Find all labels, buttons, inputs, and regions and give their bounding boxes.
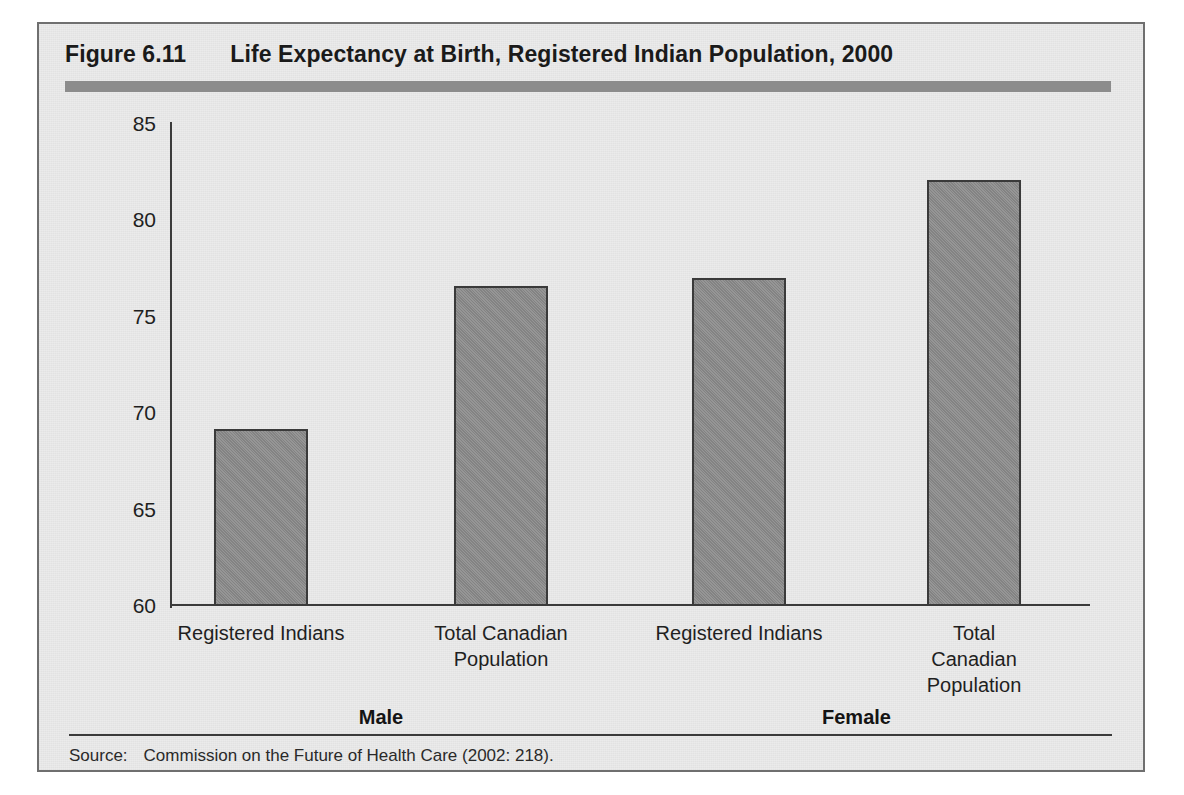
x-axis-category-label: Total Canadian Population [916, 620, 1032, 698]
y-axis-tick-label: 65 [133, 498, 156, 522]
y-axis-tick-label: 75 [133, 305, 156, 329]
x-axis-category-label: Registered Indians [178, 620, 345, 646]
group-label-female: Female [822, 706, 891, 729]
source-label: Source: [69, 746, 128, 766]
figure-panel: Figure 6.11 Life Expectancy at Birth, Re… [37, 22, 1145, 772]
source-divider [69, 734, 1112, 736]
bar [214, 429, 308, 606]
bar [692, 278, 786, 606]
bar [454, 286, 548, 606]
plot-area: 606570758085Registered IndiansTotal Cana… [170, 124, 1090, 606]
chart-canvas: 606570758085Registered IndiansTotal Cana… [39, 24, 1147, 774]
bar [927, 180, 1021, 606]
source-text: Commission on the Future of Health Care … [144, 746, 554, 766]
group-label-male: Male [359, 706, 403, 729]
source-note: Source: Commission on the Future of Heal… [69, 746, 554, 766]
x-axis-category-label: Registered Indians [656, 620, 823, 646]
y-axis-tick-label: 85 [133, 112, 156, 136]
y-axis-tick-label: 80 [133, 208, 156, 232]
x-axis-category-label: Total Canadian Population [434, 620, 567, 672]
y-axis-tick-label: 70 [133, 401, 156, 425]
y-axis-line [170, 122, 172, 608]
figure-root: Figure 6.11 Life Expectancy at Birth, Re… [0, 0, 1184, 795]
y-axis-tick-label: 60 [133, 594, 156, 618]
